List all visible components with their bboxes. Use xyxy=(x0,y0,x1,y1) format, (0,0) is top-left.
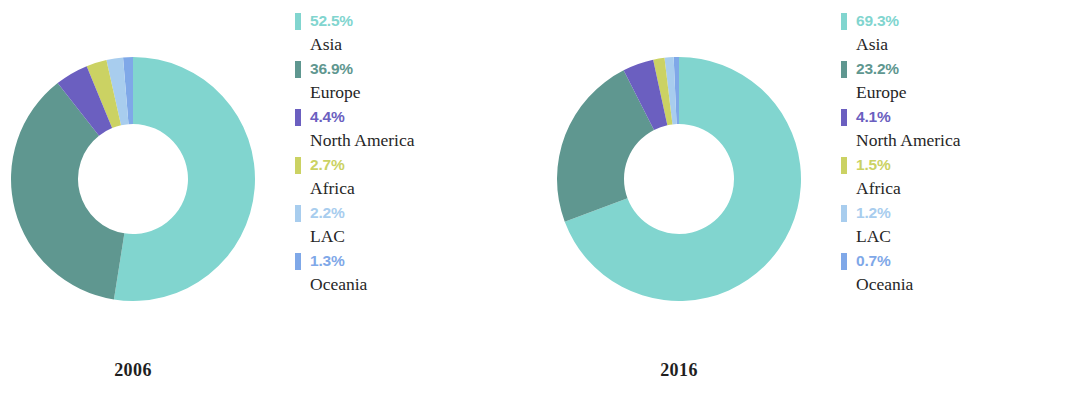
legend-percent-row: 2.2% xyxy=(295,202,535,224)
legend-region-label: Africa xyxy=(310,176,535,201)
legend-percent-row: 23.2% xyxy=(841,58,1081,80)
donut-slice xyxy=(114,57,255,301)
legend-percent: 1.3% xyxy=(310,252,345,270)
legend-swatch-lac xyxy=(841,205,847,222)
legend-region-label: LAC xyxy=(856,224,1081,249)
legend-percent: 36.9% xyxy=(310,60,353,78)
legend-swatch-africa xyxy=(295,157,301,174)
legend-swatch-lac xyxy=(295,205,301,222)
legend-percent: 1.2% xyxy=(856,204,891,222)
legend-item: 0.7%Oceania xyxy=(841,250,1081,297)
legend-percent-row: 1.2% xyxy=(841,202,1081,224)
legend-swatch-africa xyxy=(841,157,847,174)
legend-swatch-asia xyxy=(841,13,847,30)
donut-svg-2006 xyxy=(10,4,256,346)
legend-region-label: North America xyxy=(310,128,535,153)
legend-region-label: Africa xyxy=(856,176,1081,201)
legend-region-label: Europe xyxy=(856,80,1081,105)
legend-swatch-north-america xyxy=(841,109,847,126)
legend-item: 69.3%Asia xyxy=(841,10,1081,57)
donut-chart-2006 xyxy=(10,4,256,346)
donut-svg-2016 xyxy=(556,4,802,346)
legend-percent-row: 1.5% xyxy=(841,154,1081,176)
legend-percent-row: 2.7% xyxy=(295,154,535,176)
legend-item: 36.9%Europe xyxy=(295,58,535,105)
legend-region-label: Europe xyxy=(310,80,535,105)
legend-region-label: Asia xyxy=(856,32,1081,57)
donut-slice-group xyxy=(557,57,801,301)
legend-percent: 52.5% xyxy=(310,12,353,30)
legend-region-label: North America xyxy=(856,128,1081,153)
legend-percent-row: 52.5% xyxy=(295,10,535,32)
legend-percent-row: 0.7% xyxy=(841,250,1081,272)
donut-slice-group xyxy=(11,57,255,301)
legend-percent-row: 36.9% xyxy=(295,58,535,80)
legend-percent: 4.4% xyxy=(310,108,345,126)
legend-region-label: Oceania xyxy=(310,272,535,297)
legend-swatch-oceania xyxy=(295,253,301,270)
legend-swatch-oceania xyxy=(841,253,847,270)
legend-percent-row: 4.4% xyxy=(295,106,535,128)
legend-2016: 69.3%Asia23.2%Europe4.1%North America1.5… xyxy=(841,10,1081,298)
legend-item: 2.7%Africa xyxy=(295,154,535,201)
year-label-2016: 2016 xyxy=(546,360,812,381)
legend-item: 23.2%Europe xyxy=(841,58,1081,105)
legend-percent: 0.7% xyxy=(856,252,891,270)
legend-region-label: LAC xyxy=(310,224,535,249)
legend-item: 2.2%LAC xyxy=(295,202,535,249)
legend-item: 1.3%Oceania xyxy=(295,250,535,297)
legend-percent: 69.3% xyxy=(856,12,899,30)
legend-swatch-north-america xyxy=(295,109,301,126)
year-label-2006: 2006 xyxy=(0,360,266,381)
legend-percent-row: 1.3% xyxy=(295,250,535,272)
legend-2006: 52.5%Asia36.9%Europe4.4%North America2.7… xyxy=(295,10,535,298)
chart-panel-2016: 69.3%Asia23.2%Europe4.1%North America1.5… xyxy=(546,0,1091,397)
donut-chart-2016 xyxy=(556,4,802,346)
legend-percent: 2.2% xyxy=(310,204,345,222)
legend-region-label: Oceania xyxy=(856,272,1081,297)
legend-percent: 1.5% xyxy=(856,156,891,174)
donut-chart-figure: 52.5%Asia36.9%Europe4.4%North America2.7… xyxy=(0,0,1091,397)
legend-percent: 2.7% xyxy=(310,156,345,174)
legend-percent: 4.1% xyxy=(856,108,891,126)
chart-panel-2006: 52.5%Asia36.9%Europe4.4%North America2.7… xyxy=(0,0,545,397)
legend-percent-row: 4.1% xyxy=(841,106,1081,128)
legend-percent: 23.2% xyxy=(856,60,899,78)
legend-item: 4.1%North America xyxy=(841,106,1081,153)
legend-item: 1.5%Africa xyxy=(841,154,1081,201)
legend-percent-row: 69.3% xyxy=(841,10,1081,32)
legend-swatch-europe xyxy=(295,61,301,78)
legend-item: 4.4%North America xyxy=(295,106,535,153)
legend-item: 1.2%LAC xyxy=(841,202,1081,249)
legend-item: 52.5%Asia xyxy=(295,10,535,57)
legend-region-label: Asia xyxy=(310,32,535,57)
legend-swatch-asia xyxy=(295,13,301,30)
legend-swatch-europe xyxy=(841,61,847,78)
